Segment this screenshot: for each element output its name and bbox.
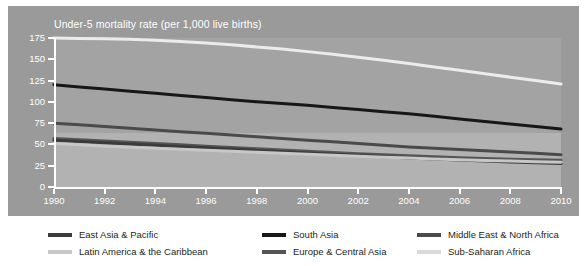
legend-item[interactable]: Sub-Saharan Africa (417, 243, 530, 261)
series-line (54, 38, 561, 84)
series-line (54, 144, 561, 163)
y-tick-label: 175 (29, 33, 45, 43)
y-tick-label-wrap: 75 (8, 118, 45, 128)
x-tick-label: 1992 (85, 196, 125, 206)
legend-label: Middle East & North Africa (448, 230, 559, 240)
legend-item[interactable]: Middle East & North Africa (417, 226, 559, 244)
chart-screenshot: Under-5 mortality rate (per 1,000 live b… (0, 0, 587, 266)
legend-swatch-icon (48, 250, 72, 254)
y-tick-label: 25 (34, 161, 45, 171)
y-tick-label-wrap: 150 (8, 54, 45, 64)
y-tick-label-wrap: 125 (8, 76, 45, 86)
y-tick-label-wrap: 175 (8, 33, 45, 43)
chart-title: Under-5 mortality rate (per 1,000 live b… (54, 18, 262, 30)
x-tick-mark (53, 189, 55, 194)
y-tick-mark (48, 122, 54, 124)
y-tick-mark (48, 58, 54, 60)
y-tick-mark (48, 37, 54, 39)
x-tick-label: 1996 (186, 196, 226, 206)
chart-panel: Under-5 mortality rate (per 1,000 live b… (8, 6, 579, 216)
y-tick-mark (48, 165, 54, 167)
plot-lines-svg (54, 38, 561, 187)
x-tick-mark (256, 189, 258, 194)
legend-swatch-icon (262, 250, 286, 254)
legend-item[interactable]: Europe & Central Asia (262, 243, 386, 261)
x-tick-label: 2008 (490, 196, 530, 206)
legend-swatch-icon (417, 233, 441, 237)
legend-row: Latin America & the CaribbeanEurope & Ce… (0, 243, 587, 261)
y-tick-label-wrap: 25 (8, 161, 45, 171)
y-axis-line (54, 38, 56, 188)
y-tick-label-wrap: 50 (8, 139, 45, 149)
y-tick-mark (48, 186, 54, 188)
x-tick-label: 2000 (288, 196, 328, 206)
y-tick-mark (48, 80, 54, 82)
chart-legend: East Asia & PacificSouth AsiaMiddle East… (0, 222, 587, 266)
x-tick-mark (459, 189, 461, 194)
legend-label: Sub-Saharan Africa (448, 247, 530, 257)
y-tick-label: 150 (29, 54, 45, 64)
y-tick-label: 0 (40, 182, 45, 192)
x-tick-mark (205, 189, 207, 194)
plot-area (54, 38, 561, 187)
x-tick-mark (154, 189, 156, 194)
x-tick-label: 1994 (135, 196, 175, 206)
legend-label: Latin America & the Caribbean (79, 247, 208, 257)
y-tick-mark (48, 143, 54, 145)
x-tick-label: 2002 (338, 196, 378, 206)
y-tick-mark (48, 101, 54, 103)
x-tick-mark (357, 189, 359, 194)
x-tick-mark (307, 189, 309, 194)
x-tick-mark (408, 189, 410, 194)
legend-label: South Asia (293, 230, 338, 240)
x-tick-label: 1990 (34, 196, 74, 206)
y-tick-label: 100 (29, 97, 45, 107)
legend-row: East Asia & PacificSouth AsiaMiddle East… (0, 226, 587, 244)
x-tick-label: 2004 (389, 196, 429, 206)
legend-label: East Asia & Pacific (79, 230, 158, 240)
legend-item[interactable]: Latin America & the Caribbean (48, 243, 208, 261)
legend-swatch-icon (48, 233, 72, 237)
legend-item[interactable]: East Asia & Pacific (48, 226, 158, 244)
x-tick-mark (509, 189, 511, 194)
x-tick-mark (104, 189, 106, 194)
x-tick-label: 1998 (237, 196, 277, 206)
x-tick-label: 2010 (541, 196, 581, 206)
x-tick-mark (560, 189, 562, 194)
legend-item[interactable]: South Asia (262, 226, 338, 244)
legend-swatch-icon (417, 250, 441, 254)
y-tick-label: 125 (29, 76, 45, 86)
legend-label: Europe & Central Asia (293, 247, 386, 257)
x-tick-label: 2006 (440, 196, 480, 206)
legend-swatch-icon (262, 233, 286, 237)
series-line (54, 85, 561, 129)
y-tick-label: 75 (34, 118, 45, 128)
y-tick-label: 50 (34, 139, 45, 149)
y-tick-label-wrap: 100 (8, 97, 45, 107)
y-tick-label-wrap: 0 (8, 182, 45, 192)
